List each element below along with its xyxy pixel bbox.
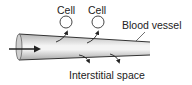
cell-label-1: Cell: [57, 5, 75, 16]
cell-circles: [60, 16, 104, 28]
cell-label-2: Cell: [88, 5, 106, 16]
interstitial-space-label: Interstitial space: [69, 70, 145, 81]
leader-line: [136, 32, 145, 41]
blood-vessel-label: Blood vessel: [122, 20, 182, 31]
